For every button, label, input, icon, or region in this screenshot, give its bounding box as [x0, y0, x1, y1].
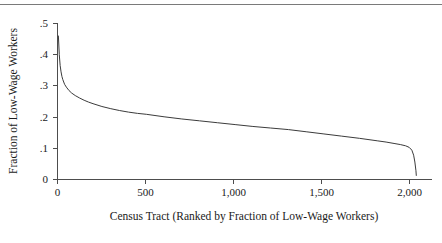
y-tick-label: 0	[43, 173, 49, 185]
x-tick-label: 1,500	[309, 186, 334, 198]
x-tick-label: 2,000	[397, 186, 422, 198]
x-axis-ticks	[58, 180, 410, 185]
y-tick-label: .3	[40, 79, 49, 91]
x-tick-label: 0	[55, 186, 61, 198]
x-axis-tick-labels: 0 500 1,000 1,500 2,000	[55, 186, 423, 198]
line-chart: .5 .4 .3 .2 .1 0 0 500 1,000 1,500 2,000…	[0, 0, 442, 243]
y-tick-label: .4	[40, 48, 49, 60]
x-tick-label: 500	[137, 186, 154, 198]
x-axis-title: Census Tract (Ranked by Fraction of Low-…	[110, 210, 379, 223]
data-series-line	[58, 36, 416, 175]
y-axis-tick-labels: .5 .4 .3 .2 .1 0	[40, 17, 49, 185]
y-tick-label: .5	[40, 17, 49, 29]
x-tick-label: 1,000	[221, 186, 246, 198]
y-axis-ticks	[53, 24, 58, 180]
y-tick-label: .2	[40, 111, 48, 123]
y-axis-title: Fraction of Low-Wage Workers	[7, 28, 20, 174]
y-tick-label: .1	[40, 142, 48, 154]
figure-container: .5 .4 .3 .2 .1 0 0 500 1,000 1,500 2,000…	[0, 0, 442, 243]
